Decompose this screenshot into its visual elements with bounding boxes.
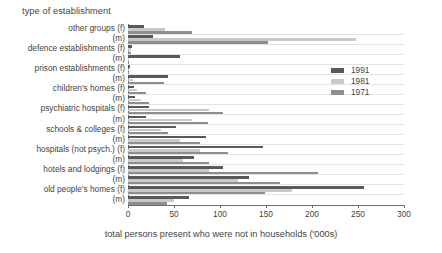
category-label: (m) <box>1 94 125 103</box>
category-label: (m) <box>1 74 125 83</box>
bar-group <box>128 54 404 64</box>
category-label: (m) <box>1 115 125 124</box>
category-label: hotels and lodgings (f) <box>1 165 125 174</box>
x-tick-label: 250 <box>343 209 373 219</box>
bar-1971 <box>128 202 167 205</box>
category-label: old people's homes (f) <box>1 185 125 194</box>
category-label: children's homes (f) <box>1 84 125 93</box>
bar-group <box>128 185 404 195</box>
category-label: hospitals (not psych.) (f) <box>1 145 125 154</box>
category-label: prison establishments (f) <box>1 64 125 73</box>
bar-group <box>128 34 404 44</box>
legend: 199119811971 <box>331 66 393 99</box>
legend-swatch-1971 <box>331 90 344 95</box>
category-label: (m) <box>1 54 125 63</box>
x-tick-label: 200 <box>297 209 327 219</box>
bar-group <box>128 145 404 155</box>
bar-group <box>128 155 404 165</box>
category-label: defence establishments (f) <box>1 44 125 53</box>
x-tick <box>220 205 221 208</box>
legend-item: 1991 <box>331 66 393 76</box>
legend-swatch-1991 <box>331 68 344 73</box>
bar-1991 <box>128 75 168 78</box>
bar-group <box>128 195 404 205</box>
x-tick <box>404 205 405 208</box>
legend-item: 1971 <box>331 88 393 98</box>
y-axis-title: type of establishment <box>22 6 111 16</box>
bar-group <box>128 165 404 175</box>
legend-label: 1981 <box>351 76 369 86</box>
x-tick <box>266 205 267 208</box>
x-tick-label: 150 <box>251 209 281 219</box>
category-label: psychiatric hospitals (f) <box>1 104 125 113</box>
category-label: (m) <box>1 155 125 164</box>
bar-group <box>128 115 404 125</box>
bar-group <box>128 125 404 135</box>
category-labels: other groups (f)(m)defence establishment… <box>0 24 125 205</box>
bar-group <box>128 135 404 145</box>
category-label: (m) <box>1 135 125 144</box>
x-tick-label: 300 <box>389 209 419 219</box>
x-tick-label: 0 <box>113 209 143 219</box>
bar-group <box>128 104 404 114</box>
category-label: (m) <box>1 175 125 184</box>
legend-label: 1971 <box>351 87 369 97</box>
category-label: (m) <box>1 34 125 43</box>
x-tick <box>128 205 129 208</box>
category-label: other groups (f) <box>1 24 125 33</box>
bar-1991 <box>128 55 180 58</box>
bar-group <box>128 24 404 34</box>
bar-group <box>128 175 404 185</box>
bar-chart: type of establishment other groups (f)(m… <box>0 0 442 253</box>
legend-swatch-1981 <box>331 79 344 84</box>
x-tick <box>358 205 359 208</box>
bar-group <box>128 44 404 54</box>
x-tick <box>174 205 175 208</box>
x-tick <box>312 205 313 208</box>
x-axis-title: total persons present who were not in ho… <box>0 229 442 239</box>
x-tick-label: 100 <box>205 209 235 219</box>
x-tick-label: 50 <box>159 209 189 219</box>
category-label: (m) <box>1 195 125 204</box>
legend-item: 1981 <box>331 77 393 87</box>
legend-label: 1991 <box>351 65 369 75</box>
category-label: schools & colleges (f) <box>1 125 125 134</box>
plot-area <box>128 24 404 205</box>
